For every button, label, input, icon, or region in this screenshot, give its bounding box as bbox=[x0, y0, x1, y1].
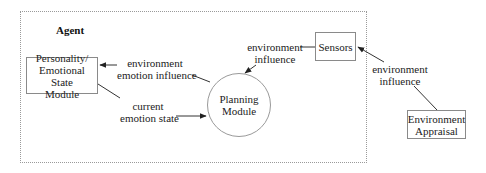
appraisal-line1: Environment bbox=[408, 113, 465, 125]
edge-personality-to-planning-line-a bbox=[98, 84, 120, 98]
edge-label-appraisal-environment-influence: environment influence bbox=[372, 63, 428, 87]
edge-label-line: influence bbox=[247, 53, 303, 65]
sensors-label: Sensors bbox=[318, 41, 352, 53]
planning-line1: Planning bbox=[219, 93, 258, 105]
sensors-box: Sensors bbox=[315, 32, 356, 61]
personality-line3: Module bbox=[45, 88, 79, 100]
personality-line1: Personality/ bbox=[36, 52, 89, 64]
edge-appraisal-to-sensors-line-b bbox=[414, 86, 437, 110]
appraisal-line2: Appraisal bbox=[415, 125, 458, 137]
edge-label-line: emotion state bbox=[120, 112, 176, 124]
edge-label-line: influence bbox=[372, 75, 428, 87]
edge-label-line: environment bbox=[372, 63, 428, 75]
edge-label-line: emotion influence bbox=[117, 69, 193, 81]
edge-label-line: current bbox=[120, 100, 176, 112]
edge-sensors-to-planning-line-b bbox=[245, 65, 256, 73]
environment-appraisal-box: Environment Appraisal bbox=[407, 110, 466, 139]
planning-module: Planning Module bbox=[207, 73, 271, 137]
personality-line2: Emotional State bbox=[27, 64, 97, 88]
planning-line2: Module bbox=[222, 105, 256, 117]
edge-label-line: environment bbox=[117, 57, 193, 69]
edge-label-sensors-environment-influence: environment influence bbox=[247, 41, 303, 65]
edge-label-environment-emotion-influence: environment emotion influence bbox=[117, 57, 193, 81]
edge-appraisal-to-sensors-line-a bbox=[358, 47, 384, 62]
edge-label-line: environment bbox=[247, 41, 303, 53]
edge-label-current-emotion-state: current emotion state bbox=[120, 100, 176, 124]
personality-emotional-state-module: Personality/ Emotional State Module bbox=[26, 57, 98, 94]
